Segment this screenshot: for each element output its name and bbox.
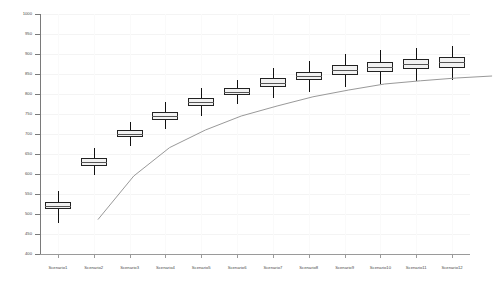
y-tick-label: 950: [0, 32, 32, 36]
x-tick-mark: [130, 254, 131, 258]
y-tick-label: 800: [0, 92, 32, 96]
y-tick-mark: [35, 254, 40, 255]
y-tick-mark: [35, 194, 40, 195]
x-tick-label: Scenario3: [112, 266, 148, 270]
y-tick-label: 550: [0, 192, 32, 196]
y-tick-label: 700: [0, 132, 32, 136]
y-tick-mark: [35, 54, 40, 55]
y-tick-mark: [35, 114, 40, 115]
whisker-upper: [452, 46, 453, 57]
box-plot-item: [40, 14, 470, 254]
y-tick-label: 450: [0, 232, 32, 236]
y-tick-label: 850: [0, 72, 32, 76]
y-tick-label: 900: [0, 52, 32, 56]
x-tick-mark: [273, 254, 274, 258]
x-tick-mark: [58, 254, 59, 258]
y-axis-line: [40, 14, 41, 254]
median-line: [439, 62, 465, 63]
y-tick-mark: [35, 134, 40, 135]
y-tick-label: 600: [0, 172, 32, 176]
x-tick-label: Scenario8: [291, 266, 327, 270]
x-tick-label: Scenario1: [40, 266, 76, 270]
x-tick-label: Scenario7: [255, 266, 291, 270]
y-tick-label: 1000: [0, 12, 32, 16]
x-tick-mark: [201, 254, 202, 258]
y-tick-label: 650: [0, 152, 32, 156]
x-tick-label: Scenario11: [398, 266, 434, 270]
y-tick-mark: [35, 154, 40, 155]
x-tick-mark: [237, 254, 238, 258]
x-tick-mark: [452, 254, 453, 258]
y-tick-mark: [35, 74, 40, 75]
x-tick-label: Scenario6: [219, 266, 255, 270]
y-tick-label: 400: [0, 252, 32, 256]
y-tick-mark: [35, 234, 40, 235]
y-tick-label: 500: [0, 212, 32, 216]
x-tick-label: Scenario4: [147, 266, 183, 270]
x-tick-mark: [416, 254, 417, 258]
x-tick-mark: [309, 254, 310, 258]
x-tick-mark: [94, 254, 95, 258]
x-tick-label: Scenario10: [362, 266, 398, 270]
y-tick-mark: [35, 14, 40, 15]
x-tick-label: Scenario2: [76, 266, 112, 270]
y-tick-mark: [35, 174, 40, 175]
y-tick-mark: [35, 94, 40, 95]
x-tick-mark: [345, 254, 346, 258]
y-tick-mark: [35, 214, 40, 215]
x-axis-line: [40, 254, 470, 255]
whisker-lower: [452, 68, 453, 80]
x-tick-label: Scenario9: [327, 266, 363, 270]
x-tick-mark: [380, 254, 381, 258]
y-tick-mark: [35, 34, 40, 35]
plot-area: [40, 14, 470, 254]
x-tick-mark: [165, 254, 166, 258]
x-tick-label: Scenario12: [434, 266, 470, 270]
y-tick-label: 750: [0, 112, 32, 116]
x-tick-label: Scenario5: [183, 266, 219, 270]
